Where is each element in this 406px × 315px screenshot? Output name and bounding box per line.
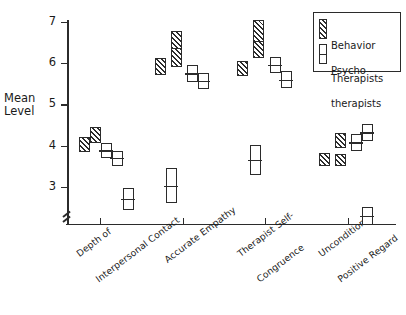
y-tick-label-4: 4: [42, 140, 56, 152]
box-median-line: [279, 80, 293, 81]
legend-item-psychotherapists: Psycho - therapists: [319, 43, 381, 131]
data-box: [171, 31, 182, 49]
box-median-line: [360, 132, 374, 133]
data-box: [79, 137, 90, 151]
data-box: [253, 20, 264, 43]
y-tick-7: [61, 22, 67, 23]
y-tick-label-3: 3: [42, 181, 56, 193]
box-median-line: [121, 199, 135, 200]
y-tick-4: [61, 146, 67, 147]
box-median-line: [196, 81, 210, 82]
x-category-label-1-line1: Depth of: [75, 189, 163, 259]
legend: Behavior Therapists Psycho - therapists: [313, 12, 401, 72]
box-median-line: [360, 216, 374, 217]
box-median-line: [268, 65, 282, 66]
y-axis-title: Mean Level: [4, 92, 56, 118]
data-box: [335, 154, 346, 166]
box-median-line: [110, 158, 124, 159]
box-median-line: [248, 160, 262, 161]
y-axis-title-line2: Level: [4, 105, 56, 118]
legend-label-psycho-line1: Psycho -: [331, 65, 381, 76]
legend-label-psycho-line2: therapists: [331, 98, 381, 109]
x-category-label-3: Therapist Self- Congruence: [223, 193, 328, 301]
y-tick-5: [61, 104, 67, 105]
axis-break-icon: [63, 216, 72, 226]
y-axis-line: [67, 20, 69, 225]
x-category-label-4: Unconditional Positive Regard: [304, 190, 406, 301]
y-tick-6: [61, 63, 67, 64]
data-box: [90, 127, 101, 143]
data-box: [335, 133, 346, 147]
data-box: [319, 153, 330, 166]
y-tick-3: [61, 187, 67, 188]
legend-swatch-open-icon: [319, 44, 327, 64]
legend-swatch-hatched-icon: [319, 19, 327, 39]
y-tick-label-6: 6: [42, 57, 56, 69]
y-tick-label-7: 7: [42, 16, 56, 28]
data-box: [155, 58, 166, 75]
box-median-line: [164, 186, 178, 187]
data-box: [237, 61, 248, 76]
box-median-line: [349, 142, 363, 143]
chart-canvas: 7 6 5 4 3 Mean Level Depth of Interperso…: [0, 0, 406, 315]
legend-label-psycho: Psycho - therapists: [331, 43, 381, 131]
